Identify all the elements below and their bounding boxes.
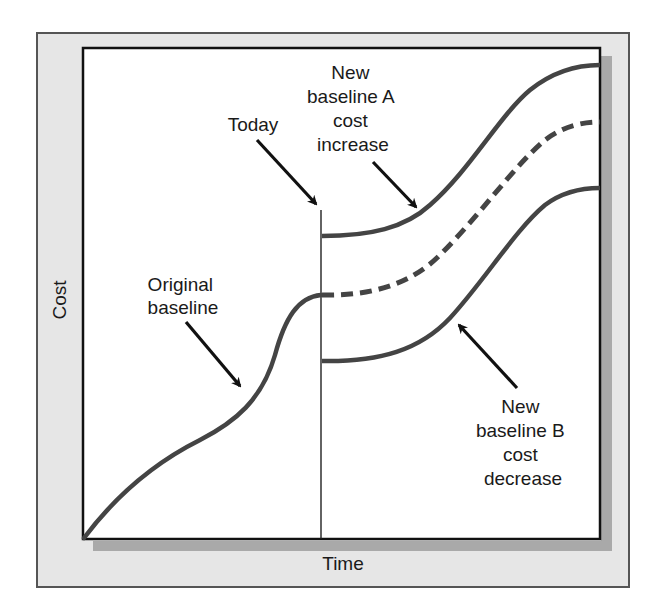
today-label: Today <box>228 114 279 135</box>
plot-shadow-right <box>601 56 612 550</box>
y-axis-label: Cost <box>49 280 70 320</box>
original-label-line: Original <box>148 274 213 295</box>
new-a-label-line: cost <box>333 110 369 131</box>
original-label-line: baseline <box>148 297 219 318</box>
cost-baseline-diagram: Today New baseline A cost increase Origi… <box>0 0 656 616</box>
new-a-label-line: increase <box>317 134 389 155</box>
x-axis-label: Time <box>322 553 364 574</box>
new-b-label-line: cost <box>503 444 539 465</box>
new-a-label-line: New <box>331 62 369 83</box>
plot-shadow-bottom <box>93 541 612 551</box>
new-b-label-line: New <box>501 396 539 417</box>
new-a-label-line: baseline A <box>307 86 395 107</box>
new-b-label-line: decrease <box>484 468 562 489</box>
new-b-label-line: baseline B <box>476 420 565 441</box>
